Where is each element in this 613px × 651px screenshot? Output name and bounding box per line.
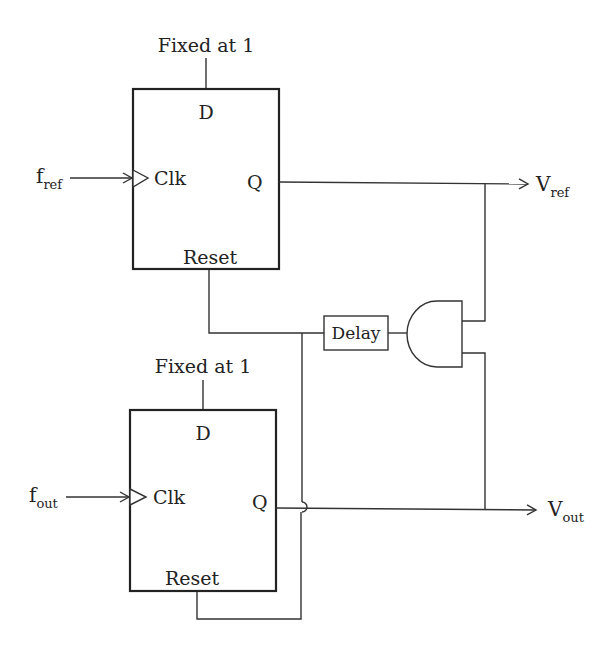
fixed-at-1-label-top: Fixed at 1	[158, 34, 255, 56]
v-out-label: Vout	[547, 497, 585, 525]
fixed-at-1-label-bottom: Fixed at 1	[155, 355, 252, 377]
clk-pin-top: Clk	[154, 167, 187, 189]
reset-wire-top	[209, 270, 324, 333]
f-ref-label: fref	[36, 164, 63, 192]
f-out-label: fout	[29, 483, 59, 511]
jumper-hop	[302, 502, 307, 512]
d-pin-top: D	[198, 101, 213, 123]
v-ref-wire	[279, 182, 528, 184]
v-ref-label: Vref	[535, 172, 570, 200]
q-pin-top: Q	[247, 171, 263, 193]
v-out-wire	[276, 508, 536, 510]
pfd-schematic: Fixed at 1 D Clk Q Reset fref Vref Delay	[0, 0, 613, 651]
clk-pin-bottom: Clk	[153, 486, 186, 508]
and-input-v-out	[462, 353, 485, 510]
flipflop-top: Fixed at 1 D Clk Q Reset fref Vref	[36, 34, 570, 269]
and-input-v-ref	[462, 184, 485, 321]
reset-pin-bottom: Reset	[165, 567, 220, 589]
delay-label: Delay	[332, 323, 381, 343]
q-pin-bottom: Q	[252, 491, 268, 513]
d-pin-bottom: D	[195, 422, 210, 444]
reset-pin-top: Reset	[183, 246, 238, 268]
and-gate-icon	[407, 301, 462, 367]
flipflop-bottom: Fixed at 1 D Clk Q Reset fout Vout	[29, 355, 585, 591]
